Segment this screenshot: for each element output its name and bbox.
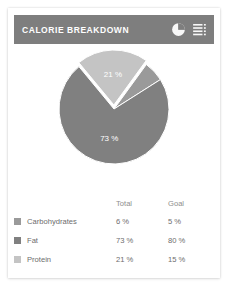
macro-legend-table: Total Goal Carbohydrates 6 % 5 % Fat 73 … (8, 194, 220, 269)
legend-col-total: Total (116, 194, 168, 212)
legend-label: Fat (27, 236, 38, 245)
calorie-pie-chart[interactable]: 73 % 21 % (51, 46, 177, 172)
legend-total-value: 21 % (116, 250, 168, 269)
legend-col-goal: Goal (168, 194, 220, 212)
table-row[interactable]: Carbohydrates 6 % 5 % (8, 212, 220, 231)
legend-goal-value: 80 % (168, 231, 220, 250)
table-row[interactable]: Fat 73 % 80 % (8, 231, 220, 250)
pie-slices (59, 50, 169, 164)
legend-col-name (8, 194, 116, 212)
table-row[interactable]: Protein 21 % 15 % (8, 250, 220, 269)
legend-total-value: 73 % (116, 231, 168, 250)
legend-color-swatch (14, 237, 21, 244)
legend-name-cell: Protein (8, 250, 116, 269)
legend-label: Carbohydrates (27, 217, 77, 226)
legend-goal-value: 5 % (168, 212, 220, 231)
pie-chart-container: 73 % 21 % (8, 46, 220, 191)
legend-name-cell: Fat (8, 231, 116, 250)
legend-goal-value: 15 % (168, 250, 220, 269)
legend-color-swatch (14, 218, 21, 225)
pie-chart-icon[interactable] (170, 21, 187, 38)
legend-header-row: Total Goal (8, 194, 220, 212)
pie-slice-label-protein: 21 % (104, 70, 122, 79)
legend-label: Protein (27, 255, 51, 264)
card-header: CALORIE BREAKDOWN (14, 15, 214, 44)
legend-name-cell: Carbohydrates (8, 212, 116, 231)
legend-total-value: 6 % (116, 212, 168, 231)
list-menu-icon[interactable] (191, 21, 208, 38)
legend-color-swatch (14, 256, 21, 263)
page-title: CALORIE BREAKDOWN (22, 25, 166, 35)
pie-slice-label-fat: 73 % (100, 134, 118, 143)
calorie-breakdown-card: CALORIE BREAKDOWN 73 % 21 (8, 8, 220, 278)
